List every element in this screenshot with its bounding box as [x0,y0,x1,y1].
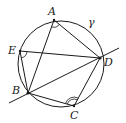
angle-mark-e [21,52,27,58]
label-e: E [7,44,16,57]
segment-bc [28,93,74,106]
segment-ed [20,51,100,58]
label-a: A [47,5,56,18]
point-c [73,105,75,107]
geometry-diagram: A B C D E γ [0,0,126,123]
label-d: D [103,56,113,69]
point-d [98,56,101,59]
point-b [26,91,29,94]
diagram-canvas: A B C D E γ [0,0,126,123]
point-a [53,19,55,21]
label-b: B [11,84,20,97]
point-e [19,50,21,52]
label-c: C [70,109,79,122]
label-gamma: γ [88,16,95,29]
